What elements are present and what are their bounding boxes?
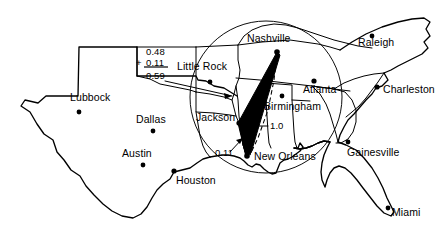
local-leg-value: 0.11: [215, 148, 233, 158]
city-label-miami: Miami: [392, 207, 421, 218]
dashed-route-value: 1.0: [270, 121, 284, 131]
city-label-new-orleans: New Orleans: [254, 151, 316, 162]
city-label-birmingham: Birmingham: [264, 101, 321, 112]
city-dot-dallas: [151, 129, 156, 134]
city-dot-new-orleans: [244, 153, 250, 159]
city-label-charleston: Charleston: [383, 84, 435, 95]
sum-addend-2: 0.11: [146, 58, 164, 68]
city-dot-gainesville: [346, 140, 351, 145]
city-label-jackson: Jackson: [196, 112, 235, 123]
city-label-gainesville: Gainesville: [347, 147, 399, 158]
city-dot-austin: [141, 163, 146, 168]
city-dot-houston: [171, 168, 176, 173]
city-dot-nashville: [274, 49, 280, 55]
city-label-little-rock: Little Rock: [177, 61, 227, 72]
city-label-dallas: Dallas: [136, 114, 166, 125]
city-dot-little-rock: [208, 80, 213, 85]
texas-outline: [21, 47, 237, 218]
city-label-nashville: Nashville: [247, 33, 291, 44]
city-label-raleigh: Raleigh: [358, 37, 394, 48]
city-dot-jackson: [236, 120, 241, 125]
city-label-atlanta: Atlanta: [303, 84, 336, 95]
map-figure: Lubbock Dallas Austin Houston Little Roc…: [0, 0, 447, 239]
city-dot-lubbock: [77, 110, 82, 115]
sum-addend-1: 0.48: [146, 47, 165, 57]
city-label-houston: Houston: [176, 175, 216, 186]
city-dot-miami: [386, 206, 391, 211]
sum-plus-sign: +: [136, 58, 142, 68]
sum-leader-line: [165, 81, 232, 96]
sum-total: 0.59: [146, 71, 165, 81]
city-dot-charleston: [374, 84, 379, 89]
city-dot-birmingham: [280, 94, 285, 99]
city-label-austin: Austin: [122, 148, 152, 159]
city-label-lubbock: Lubbock: [70, 92, 110, 103]
